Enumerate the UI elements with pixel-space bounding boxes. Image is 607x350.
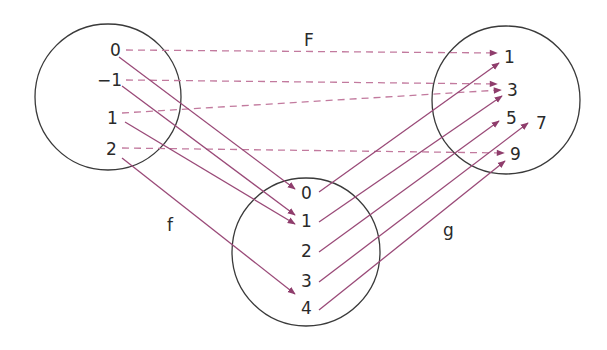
intermediate-element: 1 — [301, 211, 312, 231]
f-arrow-1-to-1 — [125, 122, 295, 224]
domain-element: 0 — [110, 40, 121, 60]
F-arrow-neg1-to-3 — [126, 80, 497, 84]
g-arrow-1-to-3 — [319, 96, 502, 222]
codomain-element: 1 — [504, 47, 515, 67]
codomain-elements: 1 3 5 7 9 — [504, 47, 547, 164]
function-label-g: g — [443, 220, 454, 240]
intermediate-element: 2 — [301, 241, 312, 261]
mapping-diagram: 0 −1 1 2 0 1 2 3 4 1 3 5 7 9 F f g — [0, 0, 607, 350]
codomain-element: 9 — [510, 144, 521, 164]
domain-element: 1 — [107, 108, 118, 128]
f-mapping-arrows — [119, 57, 295, 294]
function-label-F: F — [304, 30, 314, 50]
codomain-element: 7 — [536, 113, 547, 133]
codomain-element: 3 — [507, 80, 518, 100]
g-mapping-arrows — [319, 63, 528, 310]
intermediate-elements: 0 1 2 3 4 — [301, 183, 312, 318]
function-label-f: f — [167, 215, 174, 235]
codomain-element: 5 — [506, 108, 517, 128]
g-arrow-3-to-7 — [319, 123, 528, 282]
F-arrow-0-to-1 — [126, 50, 497, 53]
intermediate-element: 0 — [301, 183, 312, 203]
intermediate-element: 4 — [301, 298, 312, 318]
g-arrow-2-to-5 — [319, 121, 499, 252]
g-arrow-4-to-9 — [319, 161, 505, 310]
intermediate-element: 3 — [301, 271, 312, 291]
f-arrow-0-to-0 — [119, 57, 295, 189]
domain-elements: 0 −1 1 2 — [97, 40, 122, 159]
F-arrow-2-to-9 — [122, 148, 504, 153]
domain-element: 2 — [106, 139, 117, 159]
domain-element: −1 — [97, 70, 122, 90]
f-arrow-2-to-4 — [122, 158, 295, 294]
